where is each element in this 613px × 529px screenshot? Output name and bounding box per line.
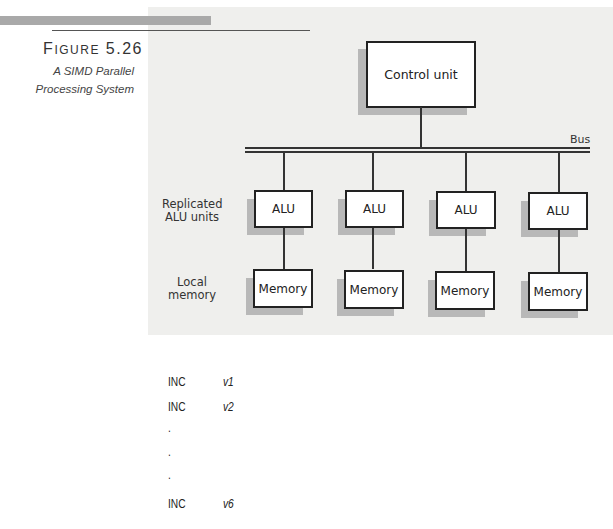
caption-line-2: Processing System (0, 80, 134, 98)
alu-to-memory-line-3 (465, 229, 467, 271)
bus-label: Bus (570, 133, 590, 146)
bus-line-bottom (245, 151, 590, 153)
code-arg-6: v6 (223, 497, 234, 511)
control-unit-box: Control unit (366, 41, 476, 108)
alu-to-memory-line-4 (558, 230, 560, 272)
memory-box-3: Memory (435, 271, 495, 310)
code-op-6: INC (168, 497, 186, 511)
code-op-1: INC (168, 375, 186, 389)
bus-to-alu-line-1 (283, 153, 285, 191)
alu-label-2: ALU (363, 202, 386, 216)
code-arg-2: v2 (223, 400, 234, 414)
control-unit-label: Control unit (384, 67, 457, 82)
alu-to-memory-line-1 (283, 228, 285, 269)
bus-to-alu-line-3 (465, 153, 467, 191)
alu-label-1: ALU (272, 202, 295, 216)
header-rule (52, 30, 310, 31)
code-ellipsis-3: . (168, 468, 171, 482)
alu-box-3: ALU (436, 191, 496, 229)
memory-label-2: Memory (350, 283, 399, 297)
alu-box-2: ALU (345, 190, 404, 228)
bus-to-alu-line-4 (558, 153, 560, 192)
alu-row-label-line-2: ALU units (162, 211, 222, 224)
alu-label-4: ALU (546, 204, 569, 218)
memory-box-2: Memory (344, 270, 404, 309)
memory-label-3: Memory (441, 284, 490, 298)
code-arg-1: v1 (223, 375, 234, 389)
bus-line-top (245, 147, 590, 149)
memory-box-1: Memory (253, 269, 313, 308)
bus-to-alu-line-2 (372, 153, 374, 191)
figure-number-value: 5.26 (106, 40, 143, 57)
code-ellipsis-2: . (168, 445, 171, 459)
alu-label-3: ALU (454, 203, 477, 217)
memory-label-4: Memory (534, 285, 583, 299)
memory-row-label: Local memory (162, 276, 222, 302)
alu-box-4: ALU (528, 192, 588, 230)
code-ellipsis-1: . (168, 421, 171, 435)
control-to-bus-line (420, 107, 422, 148)
caption-line-1: A SIMD Parallel (0, 62, 134, 80)
figure-caption: A SIMD Parallel Processing System (0, 62, 134, 98)
figure-number-prefix: F (43, 40, 54, 57)
memory-box-4: Memory (528, 272, 588, 311)
figure-number: FIGURE 5.26 (43, 40, 143, 58)
alu-to-memory-line-2 (372, 228, 374, 269)
alu-row-label: Replicated ALU units (162, 198, 222, 224)
alu-box-1: ALU (254, 190, 313, 228)
header-band (0, 16, 211, 25)
memory-row-label-line-2: memory (162, 289, 222, 302)
memory-label-1: Memory (259, 282, 308, 296)
figure-number-word: IGURE (54, 43, 100, 57)
code-op-2: INC (168, 400, 186, 414)
